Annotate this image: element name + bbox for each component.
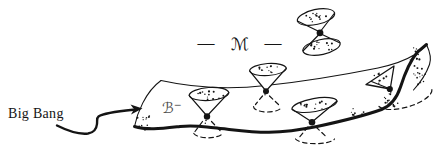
event-point — [204, 113, 210, 119]
past-cone-middle — [254, 96, 282, 112]
event-point — [263, 88, 269, 94]
light-cone-middle — [250, 63, 287, 95]
light-cone-left — [189, 87, 229, 124]
big-bang-label: Big Bang — [8, 106, 64, 121]
diagram-canvas: Big Bang — ℳ — ℬ− — [0, 0, 433, 151]
spacetime-diagram: Big Bang — ℳ — ℬ− — [0, 0, 433, 151]
manifold-dash-left: — — [197, 33, 216, 52]
event-point — [317, 29, 324, 36]
manifold-label: ℳ — [231, 34, 249, 54]
big-bang-boundary-edge — [135, 45, 427, 133]
event-point — [309, 119, 316, 126]
event-point — [387, 86, 393, 92]
surface-left-edge — [135, 81, 162, 127]
boundary-label: ℬ− — [162, 99, 182, 117]
big-bang-arrow — [57, 105, 143, 134]
manifold-dash-right: — — [264, 33, 283, 52]
